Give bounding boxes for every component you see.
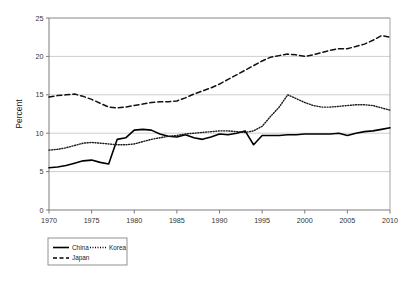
series-line-china	[49, 128, 390, 168]
legend-label-japan: Japan	[72, 254, 90, 262]
tick-label-y-5: 5	[40, 167, 44, 176]
tick-label-y-20: 20	[36, 52, 44, 61]
line-chart: 0510152025197019751980198519901995200020…	[0, 0, 411, 282]
tick-label-y-15: 15	[36, 90, 44, 99]
tick-label-x-1985: 1985	[169, 216, 185, 225]
tick-label-y-0: 0	[40, 206, 44, 215]
chart-figure: 0510152025197019751980198519901995200020…	[0, 0, 411, 282]
tick-label-y-25: 25	[36, 14, 44, 23]
tick-label-x-2005: 2005	[339, 216, 355, 225]
tick-label-x-1975: 1975	[84, 216, 100, 225]
series-line-japan	[49, 36, 390, 108]
tick-label-x-1970: 1970	[41, 216, 57, 225]
tick-label-x-1990: 1990	[212, 216, 228, 225]
legend-label-korea: Korea	[109, 244, 126, 251]
tick-label-x-1995: 1995	[254, 216, 270, 225]
tick-label-y-10: 10	[36, 129, 44, 138]
y-axis-label: Percent	[14, 99, 24, 129]
tick-label-x-1980: 1980	[126, 216, 142, 225]
tick-label-x-2000: 2000	[297, 216, 313, 225]
tick-label-x-2010: 2010	[382, 216, 398, 225]
legend-label-china: China	[72, 244, 89, 251]
